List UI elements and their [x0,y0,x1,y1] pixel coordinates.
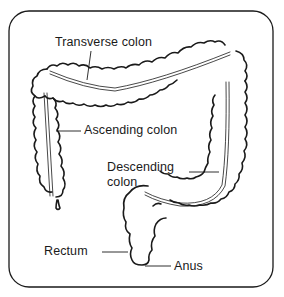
label-transverse-colon: Transverse colon [55,36,152,49]
label-descending-colon-line1: Descending [107,161,174,174]
label-descending-colon-line2: colon [107,176,137,189]
label-ascending-colon: Ascending colon [84,124,177,137]
colon-outline [31,41,247,265]
label-rectum: Rectum [44,245,88,258]
label-anus: Anus [174,260,203,273]
